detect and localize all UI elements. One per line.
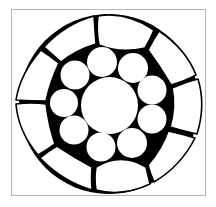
inner-wire-5 [117, 128, 147, 158]
inner-wire-6 [87, 133, 116, 162]
outer-wire-right [170, 79, 202, 134]
inner-wire-8 [50, 89, 78, 117]
core-wire [81, 77, 138, 134]
outer-wire-top [97, 15, 154, 50]
inner-wire-9 [61, 61, 90, 90]
inner-wire-4 [138, 105, 167, 134]
inner-wire-1 [87, 47, 117, 77]
outer-wire-bottom [95, 160, 150, 193]
inner-wire-3 [138, 76, 167, 105]
inner-wire-7 [60, 116, 89, 145]
cable-cross-section-diagram [0, 0, 216, 207]
